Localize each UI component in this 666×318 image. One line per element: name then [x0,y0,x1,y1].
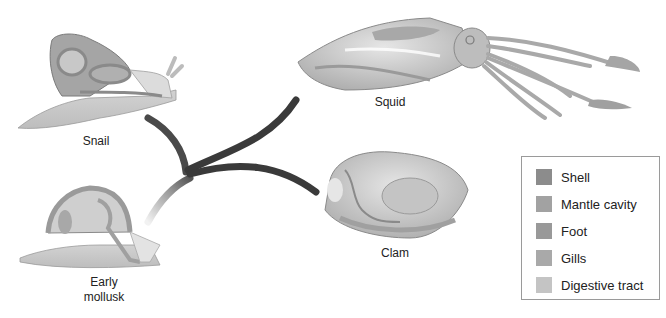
mantle-cavity-swatch [536,196,552,212]
shell-swatch [536,169,552,185]
squid-label: Squid [370,95,410,110]
legend-label: Mantle cavity [561,197,637,212]
legend-label: Foot [561,224,587,239]
snail-illustration [18,34,182,128]
digestive-tract-swatch [536,277,552,293]
branch-to-squid [188,100,296,170]
legend-item-gills: Gills [536,248,586,268]
snail-label: Snail [76,134,116,149]
early-mollusk-illustration [20,188,160,268]
legend-item-shell: Shell [536,167,590,187]
early-mollusk-label: Early mollusk [74,275,134,305]
foot-swatch [536,223,552,239]
early-mollusk-label-line2: mollusk [74,290,134,305]
legend-label: Digestive tract [561,278,643,293]
clam-label: Clam [375,246,415,261]
legend-label: Gills [561,251,586,266]
legend-item-digestive-tract: Digestive tract [536,275,643,295]
branch-to-snail [148,118,186,172]
early-mollusk-label-line1: Early [74,275,134,290]
clam-illustration [325,152,468,238]
branch-to-clam [190,166,316,192]
squid-illustration [298,18,640,118]
gills-swatch [536,250,552,266]
legend-item-foot: Foot [536,221,587,241]
legend-label: Shell [561,170,590,185]
phylogenetic-tree-branches [148,100,316,222]
trunk-branch [148,178,190,222]
legend: Shell Mantle cavity Foot Gills Digestive… [521,156,660,300]
legend-item-mantle-cavity: Mantle cavity [536,194,637,214]
